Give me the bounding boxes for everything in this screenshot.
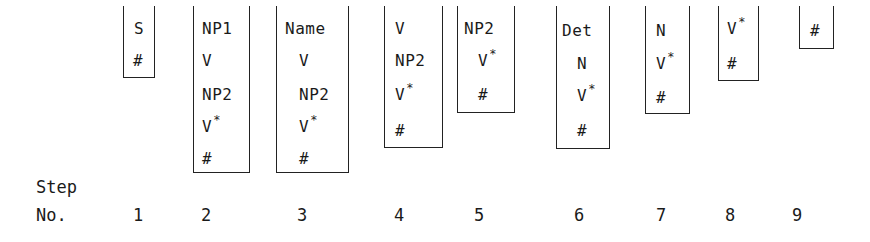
step-number-8: 8 bbox=[725, 206, 735, 224]
stack-step-2: NP1 V NP2 V* # bbox=[193, 6, 250, 173]
stack-step-5: NP2 V* # bbox=[457, 6, 515, 113]
stack-symbol: # bbox=[577, 123, 587, 139]
stack-symbol: NP1 bbox=[202, 21, 232, 37]
stack-step-1: S # bbox=[123, 6, 155, 78]
step-label-heading: Step bbox=[36, 178, 77, 196]
stack-symbol: N bbox=[577, 56, 587, 72]
stack-step-7: N V* # bbox=[645, 6, 690, 114]
step-number-3: 3 bbox=[297, 206, 307, 224]
stack-symbol: V bbox=[395, 21, 405, 37]
stack-symbol: # bbox=[299, 151, 309, 167]
stack-symbol: NP2 bbox=[299, 87, 329, 103]
step-number-5: 5 bbox=[474, 206, 484, 224]
stack-symbol: # bbox=[202, 151, 212, 167]
step-number-4: 4 bbox=[394, 206, 404, 224]
stack-symbol-v-star: V* bbox=[202, 119, 221, 136]
stack-symbol: Det bbox=[562, 23, 592, 39]
stack-step-8: V* # bbox=[718, 6, 759, 81]
stack-symbol: S bbox=[134, 21, 144, 37]
step-number-6: 6 bbox=[574, 206, 584, 224]
stack-symbol-v-star: V* bbox=[577, 88, 596, 105]
stack-symbol: V bbox=[202, 53, 212, 69]
stack-symbol: # bbox=[133, 53, 143, 69]
stack-symbol: V bbox=[299, 53, 309, 69]
stack-step-3: Name V NP2 V* # bbox=[276, 6, 349, 173]
stack-symbol: NP2 bbox=[395, 53, 425, 69]
stack-symbol-v-star: V* bbox=[656, 56, 675, 73]
stack-symbol: # bbox=[656, 90, 666, 106]
step-number-1: 1 bbox=[133, 206, 143, 224]
stack-symbol: NP2 bbox=[464, 21, 494, 37]
stack-symbol: NP2 bbox=[202, 87, 232, 103]
step-label-heading-no: No. bbox=[36, 206, 67, 224]
step-number-2: 2 bbox=[201, 206, 211, 224]
stack-step-6: Det N V* # bbox=[556, 6, 610, 149]
stack-symbol: # bbox=[395, 123, 405, 139]
step-number-7: 7 bbox=[656, 206, 666, 224]
stack-symbol-v-star: V* bbox=[727, 21, 746, 38]
stack-step-9: # bbox=[799, 6, 834, 49]
stack-symbol: Name bbox=[285, 21, 326, 37]
stack-symbol: # bbox=[727, 56, 737, 72]
stack-symbol-v-star: V* bbox=[478, 53, 497, 70]
stack-step-4: V NP2 V* # bbox=[384, 6, 443, 148]
stack-symbol-v-star: V* bbox=[395, 87, 414, 104]
stack-symbol: N bbox=[656, 23, 666, 39]
stack-symbol: # bbox=[478, 87, 488, 103]
stack-symbol-v-star: V* bbox=[299, 119, 318, 136]
stack-symbol: # bbox=[810, 23, 820, 39]
step-number-9: 9 bbox=[792, 206, 802, 224]
